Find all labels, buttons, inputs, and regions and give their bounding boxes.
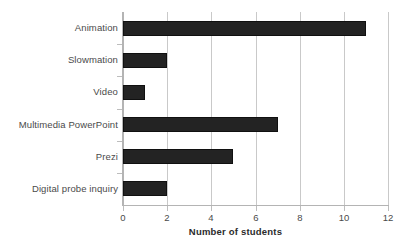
gridline-6 xyxy=(256,12,257,205)
x-axis-tick xyxy=(211,206,212,211)
y-axis-tick xyxy=(117,44,122,45)
bar xyxy=(123,53,167,68)
category-label: Video xyxy=(0,86,118,97)
bar xyxy=(123,149,233,164)
x-axis-tick-label: 4 xyxy=(196,212,226,223)
x-axis-tick xyxy=(167,206,168,211)
y-axis-tick xyxy=(117,141,122,142)
bar xyxy=(123,21,366,36)
gridline-10 xyxy=(344,12,345,205)
gridline-2 xyxy=(167,12,168,205)
x-axis-tick xyxy=(123,206,124,211)
gridline-8 xyxy=(300,12,301,205)
y-axis-tick xyxy=(117,109,122,110)
category-label: Animation xyxy=(0,22,118,33)
gridline-4 xyxy=(211,12,212,205)
bar xyxy=(123,117,278,132)
x-axis-tick-label: 2 xyxy=(152,212,182,223)
x-axis-tick-label: 0 xyxy=(108,212,138,223)
gridline-0 xyxy=(123,12,124,205)
bar-chart-figure: AnimationSlowmationVideoMultimedia Power… xyxy=(0,0,409,245)
y-axis-tick xyxy=(117,173,122,174)
x-axis-title: Number of students xyxy=(0,226,409,237)
x-axis-tick xyxy=(344,206,345,211)
gridline-12 xyxy=(388,12,389,205)
bar xyxy=(123,85,145,100)
category-label: Prezi xyxy=(0,151,118,162)
x-axis-tick xyxy=(300,206,301,211)
x-axis-tick-label: 8 xyxy=(285,212,315,223)
category-axis: AnimationSlowmationVideoMultimedia Power… xyxy=(0,12,118,205)
category-label: Slowmation xyxy=(0,54,118,65)
x-axis-tick xyxy=(388,206,389,211)
x-axis-tick xyxy=(256,206,257,211)
x-axis-tick-label: 10 xyxy=(329,212,359,223)
x-axis-tick-label: 6 xyxy=(241,212,271,223)
category-label: Multimedia PowerPoint xyxy=(0,119,118,130)
y-axis-tick xyxy=(117,76,122,77)
bar xyxy=(123,181,167,196)
x-axis-tick-label: 12 xyxy=(373,212,403,223)
category-label: Digital probe inquiry xyxy=(0,183,118,194)
plot-area xyxy=(123,12,388,205)
